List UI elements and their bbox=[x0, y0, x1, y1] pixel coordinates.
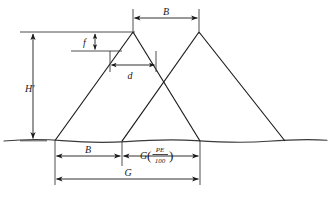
left-triangle-left-side bbox=[55, 32, 133, 141]
right-triangle-cone bbox=[122, 32, 285, 141]
ground-surface-line bbox=[4, 139, 327, 142]
pe-numerator: PE bbox=[155, 146, 165, 154]
right-triangle-left-side bbox=[122, 32, 199, 141]
f-label: f bbox=[83, 37, 87, 48]
left-triangle-right-side bbox=[133, 32, 200, 141]
paren-close: ) bbox=[169, 148, 173, 163]
g-total-label: G bbox=[124, 167, 131, 178]
paren-open: ( bbox=[147, 148, 151, 163]
b-top-label: B bbox=[163, 6, 169, 17]
b-bottom-label: B bbox=[85, 144, 91, 155]
h-prime-label: H' bbox=[24, 83, 35, 94]
diagram-canvas: H' f d B B bbox=[0, 0, 330, 200]
pe-denominator: 100 bbox=[155, 157, 166, 165]
technical-diagram: H' f d B B bbox=[0, 0, 330, 200]
d-label: d bbox=[128, 70, 134, 81]
right-triangle-right-side bbox=[199, 32, 285, 141]
bottom-extension-lines bbox=[55, 141, 200, 185]
left-triangle-cone bbox=[55, 32, 200, 141]
g-pe-label-group: G ( PE 100 ) bbox=[140, 146, 173, 165]
